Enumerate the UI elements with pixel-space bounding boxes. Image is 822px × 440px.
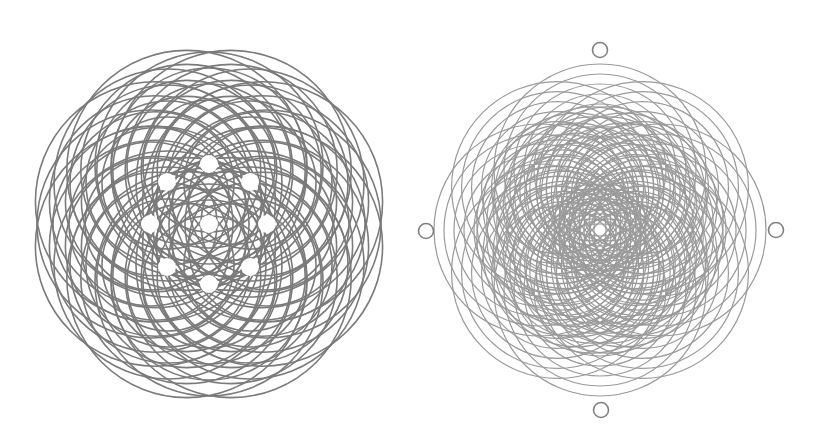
hole-dot <box>200 275 218 293</box>
hole-dot <box>200 155 218 173</box>
hole-dot <box>258 215 276 233</box>
right-figure-label: eight-petal-circle-rosette <box>0 0 12 1</box>
hole-dot <box>141 215 159 233</box>
right-marker-circle-icon <box>769 223 784 238</box>
bottom-marker-circle-icon <box>594 403 609 418</box>
diagram-canvas <box>0 0 822 440</box>
hole-dot <box>241 258 259 276</box>
top-marker-circle-icon <box>593 43 608 58</box>
left-marker-circle-icon <box>419 224 434 239</box>
hole-dot <box>158 258 176 276</box>
hole-dot <box>158 173 176 191</box>
hole-dot <box>241 173 259 191</box>
hole-dot <box>200 215 218 233</box>
